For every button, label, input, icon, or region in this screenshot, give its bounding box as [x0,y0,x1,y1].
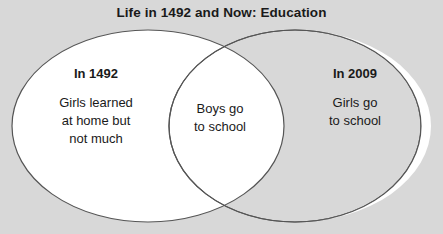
venn-region-left: In 1492 Girls learned at home but not mu… [22,66,170,148]
venn-region-left-body: Girls learned at home but not much [22,94,170,148]
venn-region-right-line-2: to school [290,112,420,130]
venn-diagram-figure: Life in 1492 and Now: Education In 1492 … [0,0,443,234]
diagram-title: Life in 1492 and Now: Education [0,5,443,20]
venn-region-left-line-1: Girls learned [22,94,170,112]
venn-region-left-line-2: at home but [22,112,170,130]
venn-region-left-heading: In 1492 [22,66,170,81]
venn-region-right-heading: In 2009 [290,66,420,81]
venn-region-left-line-3: not much [22,130,170,148]
venn-region-intersection-line-1: Boys go [180,100,260,118]
venn-region-intersection-line-2: to school [180,118,260,136]
venn-region-intersection-body: Boys go to school [180,100,260,136]
venn-region-right-body: Girls go to school [290,94,420,130]
venn-region-right: In 2009 Girls go to school [290,66,420,130]
venn-region-right-line-1: Girls go [290,94,420,112]
venn-region-intersection: Boys go to school [180,100,260,136]
